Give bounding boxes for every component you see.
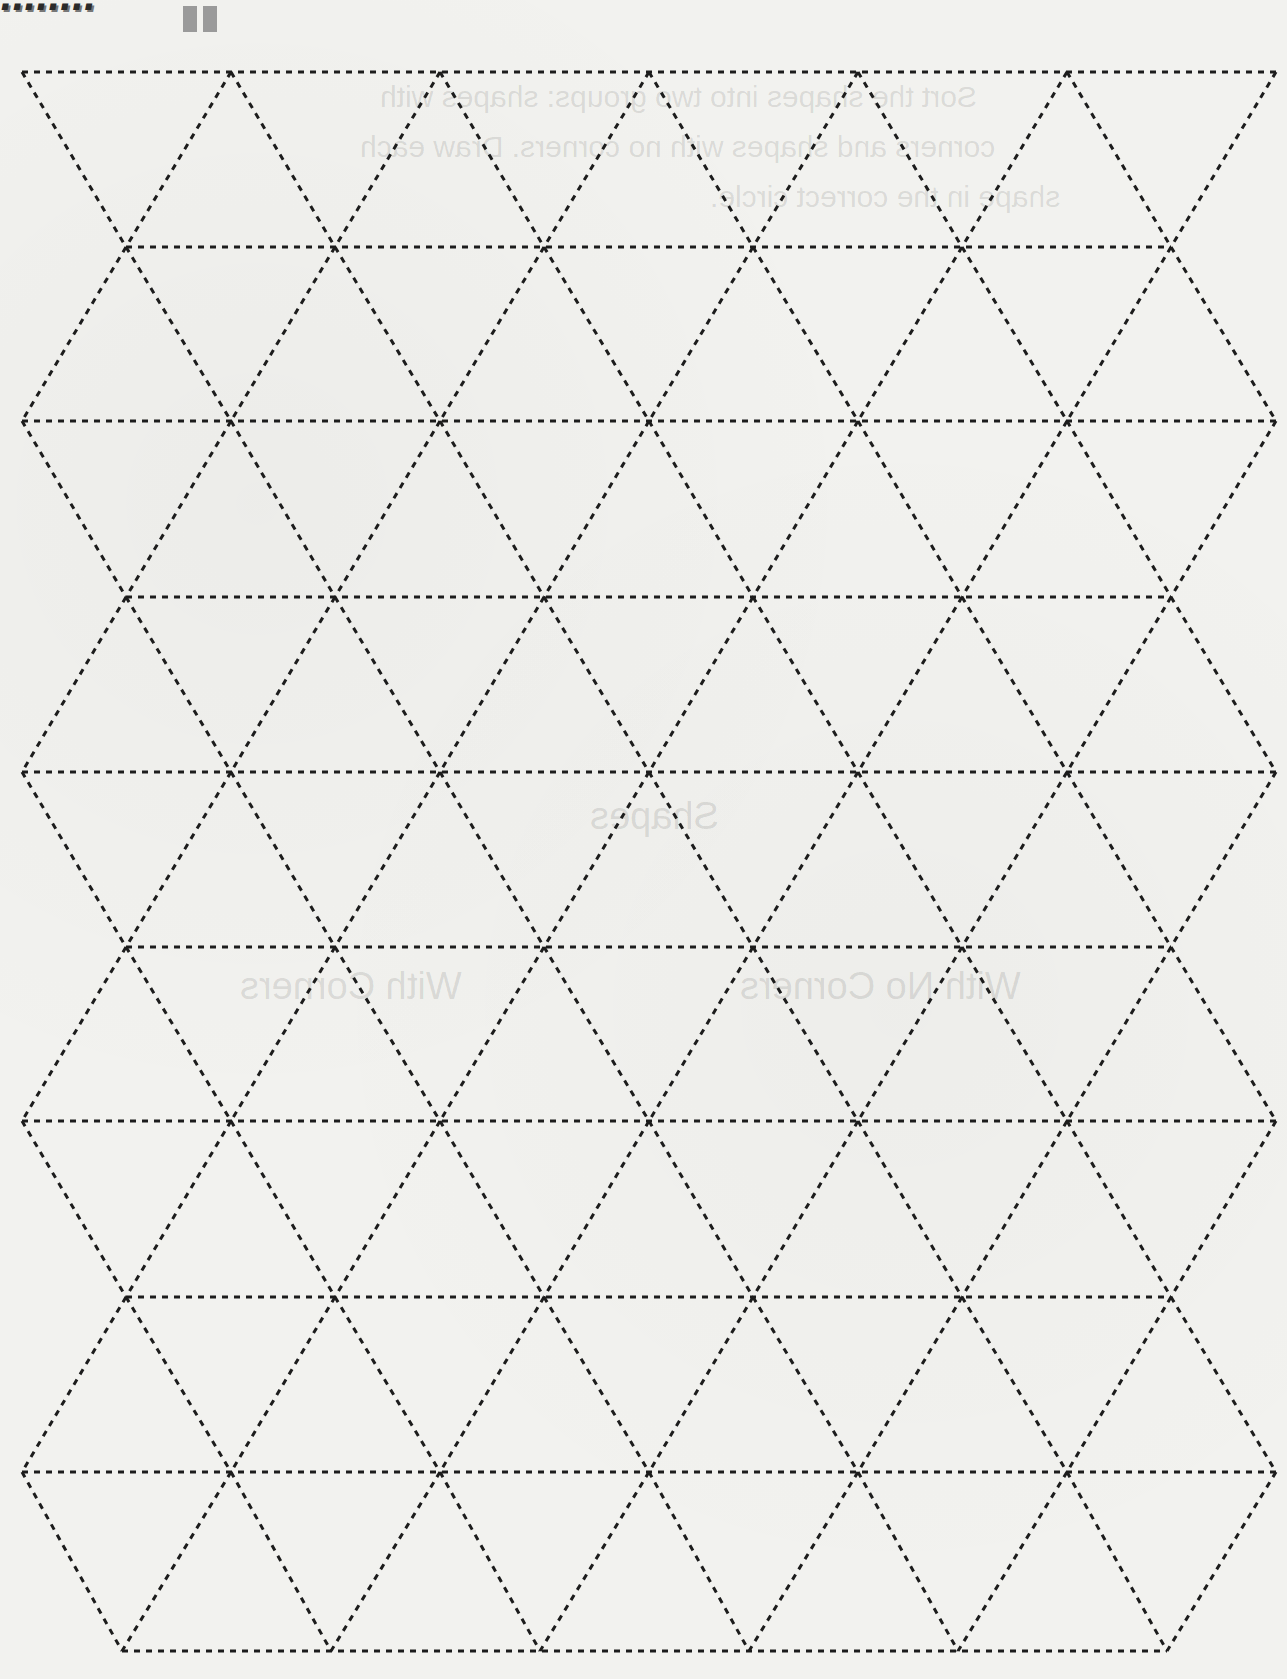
grid-diagonal-line [858,247,962,421]
grid-diagonal-line [753,1121,858,1297]
grid-diagonal-line [440,247,544,421]
grid-diagonal-line [753,772,858,947]
grid-diagonal-line [335,247,440,421]
grid-diagonal-line [1067,947,1171,1121]
grid-diagonal-line [962,1121,1067,1297]
grid-diagonal-line [335,1121,440,1297]
grid-diagonal-line [962,947,1067,1121]
grid-diagonal-line [126,1297,231,1472]
grid-diagonal-line [962,772,1067,947]
grid-diagonal-line [126,947,231,1121]
grid-diagonal-line [649,421,753,597]
grid-diagonal-line [440,772,544,947]
grid-diagonal-line [1067,597,1171,772]
grid-diagonal-line [22,72,126,247]
grid-diagonal-line [749,1472,858,1651]
grid-diagonal-line [22,247,126,421]
grid-diagonal-line [440,597,544,772]
grid-diagonal-line [126,597,231,772]
grid-diagonal-line [544,421,649,597]
grid-diagonal-line [1171,247,1276,421]
grid-diagonal-line [649,1472,749,1651]
grid-diagonal-line [335,1297,440,1472]
grid-diagonal-line [858,597,962,772]
grid-diagonal-line [231,597,335,772]
grid-diagonal-line [540,1472,649,1651]
grid-diagonal-line [1171,421,1276,597]
grid-diagonal-line [122,1472,231,1651]
grid-diagonal-line [231,72,335,247]
grid-diagonal-line [858,1297,962,1472]
grid-diagonal-line [1067,72,1171,247]
grid-diagonal-line [22,1121,126,1297]
grid-diagonal-line [753,947,858,1121]
grid-diagonal-line [858,1472,958,1651]
grid-diagonal-line [1171,72,1276,247]
grid-diagonal-line [335,421,440,597]
grid-diagonal-line [22,1297,126,1472]
grid-diagonal-line [231,772,335,947]
grid-diagonal-line [1067,421,1171,597]
grid-diagonal-line [22,772,126,947]
grid-diagonal-line [440,72,544,247]
grid-diagonal-line [753,72,858,247]
grid-diagonal-line [544,72,649,247]
grid-diagonal-line [231,247,335,421]
grid-diagonal-line [126,421,231,597]
grid-diagonal-line [962,1297,1067,1472]
grid-diagonal-line [22,947,126,1121]
grid-diagonal-line [1067,1121,1171,1297]
grid-diagonal-line [1067,247,1171,421]
grid-diagonal-line [22,1472,122,1651]
grid-diagonal-line [1171,772,1276,947]
grid-diagonal-line [753,1297,858,1472]
grid-diagonal-line [649,947,753,1121]
grid-diagonal-line [335,597,440,772]
grid-diagonal-line [440,947,544,1121]
grid-diagonal-line [544,597,649,772]
grid-diagonal-line [1171,947,1276,1121]
grid-diagonal-line [231,1121,335,1297]
grid-diagonal-line [335,947,440,1121]
grid-diagonal-line [1167,1472,1276,1651]
grid-diagonal-line [22,421,126,597]
grid-diagonal-line [649,1297,753,1472]
grid-diagonal-line [126,72,231,247]
grid-diagonal-line [544,1297,649,1472]
grid-diagonal-line [858,772,962,947]
grid-diagonal-line [962,421,1067,597]
grid-diagonal-line [544,772,649,947]
grid-diagonal-line [126,1121,231,1297]
grid-diagonal-line [858,947,962,1121]
grid-diagonal-line [544,1121,649,1297]
grid-diagonal-line [858,421,962,597]
grid-diagonal-line [1067,772,1171,947]
grid-diagonal-line [544,947,649,1121]
grid-diagonal-line [335,772,440,947]
grid-diagonal-line [231,1297,335,1472]
grid-diagonal-line [126,772,231,947]
grid-diagonal-line [231,421,335,597]
grid-diagonal-line [753,421,858,597]
grid-diagonal-line [962,247,1067,421]
grid-diagonal-line [962,72,1067,247]
grid-diagonal-line [1171,1121,1276,1297]
grid-diagonal-line [126,247,231,421]
grid-diagonal-line [649,72,753,247]
grid-diagonal-line [1171,597,1276,772]
grid-diagonal-line [1171,1297,1276,1472]
grid-diagonal-line [1067,1297,1171,1472]
grid-diagonal-line [962,597,1067,772]
grid-diagonal-line [440,1297,544,1472]
grid-diagonal-line [858,1121,962,1297]
grid-diagonal-line [1067,1472,1167,1651]
triangle-grid [0,0,1287,1679]
grid-diagonal-line [649,1121,753,1297]
grid-diagonal-line [231,1472,331,1651]
grid-diagonal-line [753,247,858,421]
grid-diagonal-line [649,597,753,772]
grid-diagonal-line [958,1472,1067,1651]
grid-diagonal-line [22,597,126,772]
grid-diagonal-line [544,247,649,421]
grid-diagonal-line [335,72,440,247]
